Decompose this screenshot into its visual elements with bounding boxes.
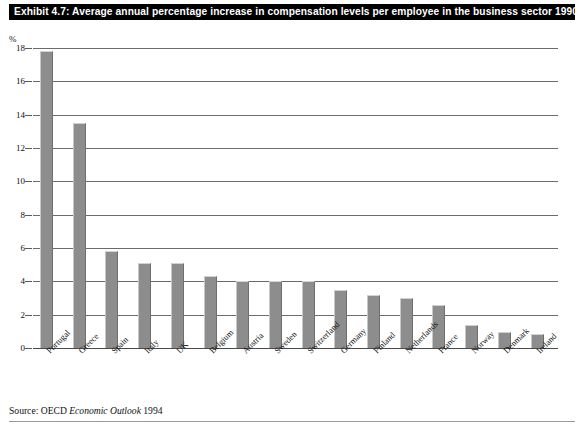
y-axis-tick-label: 6 [7,244,25,253]
gridline [33,248,558,249]
y-axis-tick-label: 4 [7,277,25,286]
bar [269,281,282,348]
y-axis-tick [25,181,32,182]
gridline [33,48,558,49]
bar [105,251,118,348]
gridline [33,181,558,182]
y-axis-tick [25,115,32,116]
bar [73,123,86,348]
exhibit-title: Exhibit 4.7: Average annual percentage i… [9,4,575,20]
bar [204,276,217,348]
y-axis-tick-label: 16 [7,77,25,86]
source-publication: Economic Outlook [69,405,141,416]
y-axis-tick-label: 8 [7,211,25,220]
y-axis-tick [25,248,32,249]
y-axis-tick [25,81,32,82]
bar [40,51,53,348]
x-axis-category-labels: PortugalGreeceSpainItalyUKBelgiumAustria… [33,349,573,401]
source-prefix: Source: OECD [9,405,69,416]
plot-area [33,48,558,348]
y-axis-tick [25,315,32,316]
bar [334,290,347,348]
y-axis-tick-label: 2 [7,311,25,320]
y-axis-tick-label: 14 [7,111,25,120]
y-axis-tick [25,281,32,282]
gridline [33,148,558,149]
y-axis-tick [25,48,32,49]
footer-rule [9,421,575,422]
bar [302,281,315,348]
y-axis-tick-label: 0 [7,344,25,353]
source-note: Source: OECD Economic Outlook 1994 [9,405,162,416]
y-axis-tick [25,148,32,149]
bar [236,281,249,348]
gridline [33,215,558,216]
y-axis-tick [25,215,32,216]
y-axis-tick-label: 12 [7,144,25,153]
y-axis-tick-label: 18 [7,44,25,53]
bar [138,263,151,348]
y-axis-tick-label: 10 [7,177,25,186]
y-axis-tick-labels: 024681012141618 [6,48,25,348]
bar [171,263,184,348]
gridline [33,81,558,82]
exhibit-chart-figure: Exhibit 4.7: Average annual percentage i… [0,0,583,427]
y-axis-tick [25,348,32,349]
gridline [33,115,558,116]
source-year: 1994 [141,405,163,416]
